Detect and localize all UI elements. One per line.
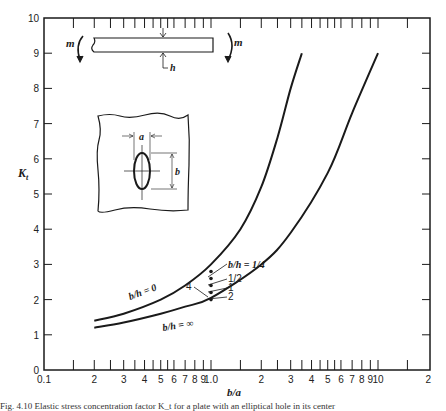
x-tick-label: 2 [91,374,97,385]
y-tick-label: 2 [33,295,39,306]
curve-label-b-h-inf: b/h = ∞ [162,317,195,333]
moment-label-left: m [66,37,75,49]
x-tick-label: 2 [425,374,431,385]
data-point [209,277,213,281]
y-tick-label: 4 [33,224,39,235]
y-tick-label: 6 [33,154,39,165]
x-tick-label: 7 [349,374,355,385]
thickness-label: h [170,62,176,73]
y-tick-label: 3 [33,259,39,270]
hole-height-label: b [175,166,180,177]
y-tick-label: 8 [33,83,39,94]
point-label-quarter: b/h = 1/4 [228,259,265,270]
x-tick-label: 3 [288,374,294,385]
data-point [209,270,213,274]
point-label-four: 4 [186,281,192,292]
hole-width-label: a [139,131,144,142]
beam-diagram [77,28,232,68]
y-tick-label: 9 [33,48,39,59]
x-tick-label: 8 [192,374,198,385]
x-tick-label: 8 [359,374,365,385]
y-tick-label: 1 [33,330,39,341]
y-tick-label: 10 [28,13,40,24]
y-tick-label: 5 [33,189,39,200]
plate-hole-diagram [97,113,189,212]
x-axis-label: b/a [227,386,242,398]
x-tick-label: 1.0 [204,374,218,385]
curve-label-b-h-0: b/h = 0 [127,282,158,302]
x-tick-label: 6 [171,374,177,385]
y-axis: 012345678910 [28,13,430,376]
x-axis: 0.1234567891.023456789102 [37,18,431,385]
x-tick-label: 4 [142,374,148,385]
x-tick-label: 5 [325,374,331,385]
y-tick-label: 7 [33,119,39,130]
x-tick-label: 4 [309,374,315,385]
x-tick-label: 5 [158,374,164,385]
figure-caption: Fig. 4.10 Elastic stress concentration f… [0,401,446,411]
x-tick-label: 6 [338,374,344,385]
point-label-two: 2 [228,291,234,302]
y-axis-label: Kt [17,166,29,182]
x-tick-label: 0.1 [37,374,51,385]
moment-label-right: m [234,36,243,48]
x-tick-label: 3 [121,374,127,385]
x-tick-label: 2 [258,374,264,385]
x-tick-label: 10 [372,374,384,385]
x-tick-label: 7 [182,374,188,385]
